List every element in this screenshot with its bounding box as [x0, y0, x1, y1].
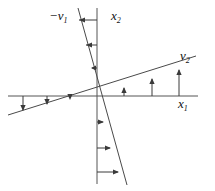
- flow-arrow-up-2: [149, 78, 154, 96]
- v2-label: v2: [180, 49, 190, 62]
- x2-axis-label: x2: [111, 9, 121, 22]
- axes-group: [8, 8, 198, 184]
- v2-label-base: v: [180, 48, 186, 63]
- neg-v1-label: −v1: [49, 9, 68, 22]
- flow-arrow-up-1: [121, 87, 126, 96]
- neg-v1-label-base: −v: [49, 8, 64, 23]
- flow-arrow-down-1: [20, 96, 25, 111]
- flow-arrows-right-up: [121, 69, 181, 96]
- flow-arrow-right-1: [97, 119, 104, 124]
- flow-arrow-up-3: [176, 69, 181, 96]
- x2-axis-label-base: x: [111, 8, 117, 23]
- flow-arrow-right-2: [97, 145, 111, 150]
- flow-arrows-lower-right: [97, 119, 119, 174]
- neg-v1-label-subscript: 1: [64, 16, 68, 25]
- v2-eigenvector-line: [8, 56, 196, 115]
- x1-axis-label-base: x: [178, 96, 184, 111]
- x2-axis-label-subscript: 2: [117, 16, 121, 25]
- flow-arrow-right-3: [97, 169, 119, 174]
- flow-arrow-down-3: [67, 94, 72, 100]
- eigenvector-phase-diagram: −v1 x2 v2 x1: [0, 0, 215, 191]
- v2-label-subscript: 2: [186, 56, 190, 65]
- x1-axis-label: x1: [178, 97, 188, 110]
- x1-axis-label-subscript: 1: [184, 104, 188, 113]
